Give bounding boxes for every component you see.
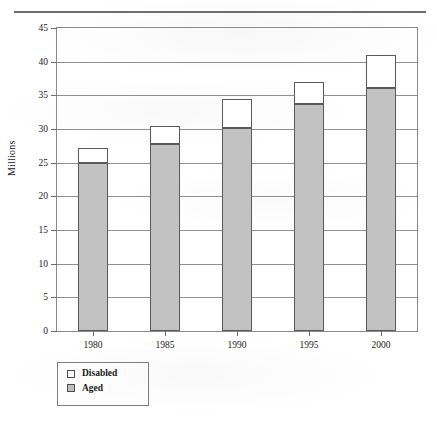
y-axis-tick bbox=[51, 297, 57, 298]
x-axis-label: 2000 bbox=[372, 340, 391, 350]
legend-swatch-aged-icon bbox=[67, 384, 75, 392]
bar-stack bbox=[294, 82, 324, 331]
chart-plot-area: 05101520253035404519801985199019952000 bbox=[56, 27, 418, 332]
legend-item-disabled: Disabled bbox=[67, 369, 148, 379]
y-axis-tick bbox=[51, 331, 57, 332]
x-axis-label: 1995 bbox=[300, 340, 319, 350]
y-gridline bbox=[57, 95, 417, 96]
bar-stack bbox=[222, 99, 252, 331]
y-axis-tick bbox=[51, 95, 57, 96]
y-axis-label: 10 bbox=[39, 259, 49, 269]
y-axis-tick bbox=[51, 62, 57, 63]
bar-segment-aged bbox=[150, 144, 180, 331]
bar-stack bbox=[78, 148, 108, 331]
bar-stack bbox=[150, 126, 180, 331]
x-axis-label: 1985 bbox=[156, 340, 175, 350]
x-axis-label: 1980 bbox=[84, 340, 103, 350]
bar-segment-disabled bbox=[78, 148, 108, 163]
bar-segment-disabled bbox=[366, 55, 396, 88]
y-axis-label: 25 bbox=[39, 158, 49, 168]
x-axis-tick bbox=[309, 331, 310, 336]
x-axis-tick bbox=[165, 331, 166, 336]
bar-stack bbox=[366, 55, 396, 331]
bar-segment-aged bbox=[78, 163, 108, 331]
y-axis-tick bbox=[51, 28, 57, 29]
y-axis-label: 40 bbox=[39, 57, 49, 67]
legend-label-aged: Aged bbox=[82, 384, 103, 394]
bar-segment-aged bbox=[222, 128, 252, 331]
y-axis-tick bbox=[51, 163, 57, 164]
chart-legend: Disabled Aged bbox=[57, 362, 149, 406]
y-axis-label: 30 bbox=[39, 124, 49, 134]
legend-swatch-disabled-icon bbox=[67, 370, 75, 378]
y-gridline bbox=[57, 62, 417, 63]
page-top-rule bbox=[14, 11, 426, 13]
y-axis-tick bbox=[51, 230, 57, 231]
y-axis-tick bbox=[51, 129, 57, 130]
y-axis-label: 20 bbox=[39, 191, 49, 201]
y-axis-tick bbox=[51, 196, 57, 197]
bar-segment-aged bbox=[294, 104, 324, 331]
y-axis-label: 5 bbox=[43, 292, 48, 302]
bar-segment-aged bbox=[366, 88, 396, 331]
y-axis-label: 35 bbox=[39, 90, 49, 100]
bar-segment-disabled bbox=[150, 126, 180, 144]
y-axis-label: 0 bbox=[43, 326, 48, 336]
y-axis-title: Millions bbox=[6, 141, 17, 177]
legend-label-disabled: Disabled bbox=[82, 369, 117, 379]
scanned-page: Millions 0510152025303540451980198519901… bbox=[0, 0, 437, 426]
y-axis-tick bbox=[51, 264, 57, 265]
x-axis-tick bbox=[93, 331, 94, 336]
x-axis-label: 1990 bbox=[228, 340, 247, 350]
legend-item-aged: Aged bbox=[67, 384, 148, 394]
y-axis-label: 45 bbox=[39, 23, 49, 33]
bar-segment-disabled bbox=[222, 99, 252, 128]
x-axis-tick bbox=[381, 331, 382, 336]
x-axis-tick bbox=[237, 331, 238, 336]
bar-segment-disabled bbox=[294, 82, 324, 104]
y-axis-label: 15 bbox=[39, 225, 49, 235]
